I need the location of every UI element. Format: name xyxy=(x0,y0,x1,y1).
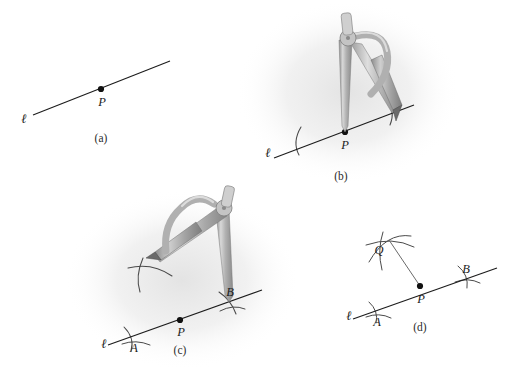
panel-c-label-B: B xyxy=(226,285,234,300)
panel-d-label-B: B xyxy=(462,262,470,277)
panel-a-label-P: P xyxy=(98,95,106,110)
panel-d-line-label: ℓ xyxy=(346,308,351,324)
construction-figure-svg xyxy=(0,0,513,385)
panel-a-point-P xyxy=(98,86,104,92)
panel-d-label-A: A xyxy=(373,315,381,330)
panel-c-label-P: P xyxy=(177,325,185,340)
panel-b-line-label: ℓ xyxy=(265,145,270,161)
panel-c-caption: (c) xyxy=(174,344,187,356)
compass-b-handle xyxy=(341,13,353,36)
figure-root: ℓ P (a) ℓ P (b) ℓ A P B (c) ℓ A P B Q (d… xyxy=(0,0,513,385)
panel-a-line-label: ℓ xyxy=(21,111,26,127)
panel-b-label-P: P xyxy=(341,138,349,153)
panel-d-label-Q: Q xyxy=(374,243,383,258)
panel-c-point-P xyxy=(177,317,183,323)
panel-d-segment-PQ xyxy=(389,240,420,286)
panel-a-caption: (a) xyxy=(95,132,108,144)
panel-d-point-P xyxy=(417,283,423,289)
panel-c-line-label: ℓ xyxy=(101,336,106,352)
panel-c-label-A: A xyxy=(130,341,138,356)
panel-c-halo xyxy=(64,190,300,370)
panel-d-caption: (d) xyxy=(413,321,426,333)
compass-b-hinge-pin xyxy=(346,36,350,40)
panel-b-caption: (b) xyxy=(334,170,347,182)
panel-d-label-P: P xyxy=(417,292,425,307)
